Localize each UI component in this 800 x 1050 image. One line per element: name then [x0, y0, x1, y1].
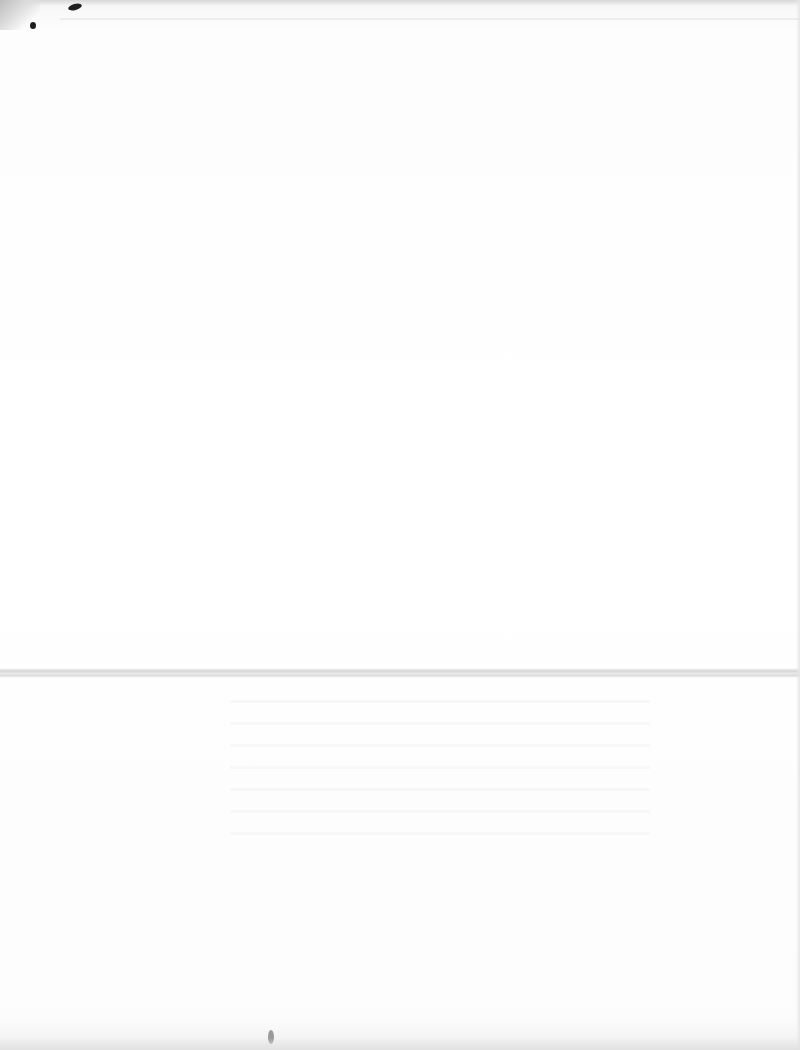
top-rule-line [60, 18, 800, 20]
blank-scanned-page [0, 0, 800, 1050]
top-edge-shadow [0, 0, 800, 6]
right-edge-shadow [796, 0, 800, 1050]
bottom-edge-shadow [0, 1038, 800, 1050]
fold-line [0, 668, 800, 678]
bleed-through-text [230, 700, 650, 850]
ink-smudge [30, 22, 36, 29]
